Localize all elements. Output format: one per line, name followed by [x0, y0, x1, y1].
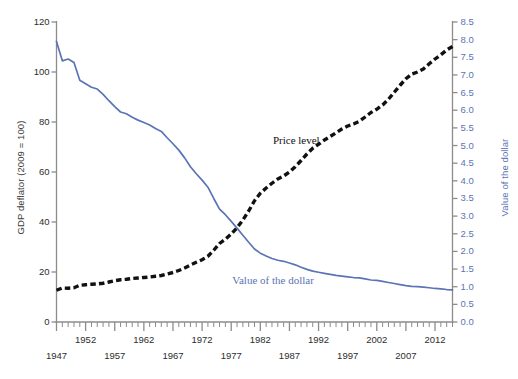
y-tick-right-1.0: 1.0 [461, 281, 495, 292]
x-tick-2002: 2002 [355, 334, 399, 345]
x-tick-1987: 1987 [267, 350, 311, 361]
y-tick-right-5.5: 5.5 [461, 122, 495, 133]
chart-figure: GDP deflator (2009 = 100) Value of the d… [0, 0, 518, 379]
y-tick-right-8.0: 8.0 [461, 34, 495, 45]
y-tick-right-4.5: 4.5 [461, 157, 495, 168]
y-tick-right-1.5: 1.5 [461, 263, 495, 274]
x-tick-1962: 1962 [122, 334, 166, 345]
y-tick-right-5.0: 5.0 [461, 140, 495, 151]
x-tick-1997: 1997 [326, 350, 370, 361]
y-tick-right-3.5: 3.5 [461, 192, 495, 203]
x-tick-1952: 1952 [64, 334, 108, 345]
x-tick-1992: 1992 [297, 334, 341, 345]
y-tick-right-6.5: 6.5 [461, 87, 495, 98]
x-tick-1957: 1957 [93, 350, 137, 361]
y-axis-right-title: Value of the dollar [499, 98, 510, 258]
x-tick-1977: 1977 [209, 350, 253, 361]
x-tick-1972: 1972 [180, 334, 224, 345]
y-tick-right-7.5: 7.5 [461, 51, 495, 62]
chart-plot-area [0, 0, 518, 379]
series-line-price-level [57, 47, 453, 291]
x-tick-1967: 1967 [151, 350, 195, 361]
y-tick-left-120: 120 [16, 16, 50, 27]
y-tick-left-40: 40 [16, 216, 50, 227]
y-tick-left-60: 60 [16, 166, 50, 177]
y-tick-right-6.0: 6.0 [461, 104, 495, 115]
y-tick-right-8.5: 8.5 [461, 16, 495, 27]
x-tick-1947: 1947 [35, 350, 79, 361]
y-tick-right-2.5: 2.5 [461, 228, 495, 239]
y-tick-left-20: 20 [16, 266, 50, 277]
series-line-value-of-the-dollar [57, 41, 453, 289]
y-tick-right-0.0: 0.0 [461, 316, 495, 327]
y-tick-right-0.5: 0.5 [461, 298, 495, 309]
y-tick-right-2.0: 2.0 [461, 245, 495, 256]
y-tick-right-3.0: 3.0 [461, 210, 495, 221]
y-tick-right-4.0: 4.0 [461, 175, 495, 186]
y-tick-left-100: 100 [16, 66, 50, 77]
x-tick-1982: 1982 [238, 334, 282, 345]
annotation-price-level: Price level [273, 134, 320, 146]
y-tick-left-0: 0 [16, 316, 50, 327]
y-tick-right-7.0: 7.0 [461, 69, 495, 80]
x-tick-2007: 2007 [384, 350, 428, 361]
annotation-value-of-the-dollar: Value of the dollar [232, 274, 314, 286]
x-tick-2012: 2012 [413, 334, 457, 345]
y-tick-left-80: 80 [16, 116, 50, 127]
